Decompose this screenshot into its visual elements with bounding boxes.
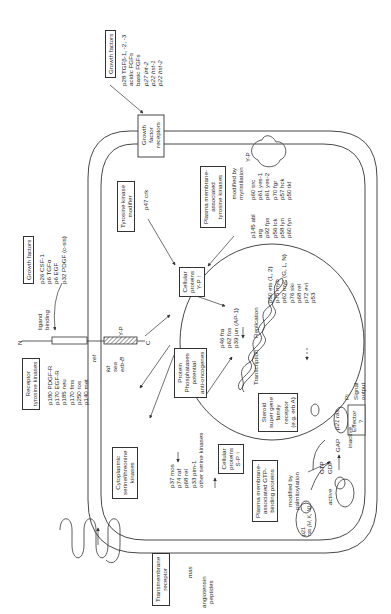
gf-item: p27 int-2: [142, 35, 149, 86]
rtk-item: p180 PDGF-R: [46, 366, 53, 405]
kinase-item: p61 yes-2: [263, 173, 270, 200]
p21ras-text: p21 ras: [333, 409, 340, 430]
label-line: potential: [190, 352, 197, 394]
gap-label: GAP: [334, 439, 341, 452]
label-line: Y-P ↑: [195, 271, 202, 293]
ck-item: p74 raf: [175, 433, 182, 488]
label-line: super gene: [267, 397, 274, 428]
rtk-extra-item: sea: [111, 357, 118, 372]
gf-item: p22 hst-2: [156, 35, 163, 86]
gtp-text: GTP: [318, 461, 325, 474]
receptor-tyrosine-kinases-box: Receptor tyrosine kinases: [22, 358, 40, 410]
rtk-item: p185 neu: [60, 366, 67, 405]
gtp-binding-proteins-box: Plasma membrane- associated GTP- binding…: [252, 460, 278, 522]
label-line: ras (H, K, N): [306, 506, 312, 536]
rtk-item: p170 fms: [68, 366, 75, 405]
label-line: tyrosine kinases: [31, 362, 38, 406]
growth-factors-top-list: p28 TGFβ-1, -2, -3 acidic FGFs basic FGF…: [120, 35, 163, 86]
cytoplasmic-kinases-list: p37 mos p74 raf p68 rel p33 pim-1 other …: [168, 433, 204, 488]
kinase-item: p92 fps: [263, 214, 270, 238]
ck-item: p37 mos: [168, 433, 175, 488]
ap1-item: p62 fos: [225, 308, 232, 348]
ras-active-label: p21 ras (H, K, N): [300, 506, 312, 536]
c-terminus: C: [144, 341, 151, 345]
label-line: Signal: [352, 383, 359, 400]
label-line: angiotensin: [200, 576, 207, 608]
label-line: peptides: [207, 576, 214, 608]
gf-item: p32 PDGF (c-sis): [60, 236, 67, 284]
label-line: receptors: [154, 115, 161, 155]
nuc-item: p62 myc (G, L, N): [280, 254, 287, 303]
nuc-item: p72 evi: [302, 254, 309, 303]
n-terminus: N: [16, 341, 23, 345]
gf-item: p22 hst-1: [149, 35, 156, 86]
nuc-item: p53: [309, 254, 316, 303]
label-line: proteins: [227, 448, 234, 470]
signal-output-label: Signal output: [352, 383, 366, 400]
label-line: proteins: [188, 271, 195, 293]
label-line: Cellular: [181, 271, 188, 293]
gdp-text: GDP: [326, 461, 333, 474]
note-line: modified by: [230, 167, 237, 200]
myr-phospho: Y-P: [244, 152, 251, 162]
ap1-item: p46 fra: [218, 308, 225, 348]
label-line: Plasma membrane-: [202, 170, 209, 224]
rtk-phospho: Y-P: [117, 326, 124, 336]
gf-item: p6 TGFα: [45, 236, 52, 284]
kinase-item: p60 fyn: [285, 214, 292, 238]
pm-kinases-col2: p60 src p61 yes-1 p61 yes-2 p70 fgr p57 …: [249, 173, 292, 200]
active-text: active: [326, 489, 333, 505]
gf-item: p28 TGFβ-1, -2, -3: [120, 35, 127, 86]
gf-left-title: Growth factors: [25, 240, 32, 280]
label-line: ?: [357, 411, 364, 432]
kinase-item: p58 lyn: [278, 214, 285, 238]
gf-item: p26 CSF-1: [38, 236, 45, 284]
label-line: Effector: [350, 411, 357, 432]
cellular-proteins-s-box: Cellular proteins S-P ↑: [218, 444, 244, 474]
crk-label: p47 crk: [142, 190, 149, 210]
label-line: Protein: [176, 352, 183, 394]
mas-serpentine: [60, 519, 120, 563]
label-line: Growth: [140, 115, 147, 155]
receptor-kinase-shape: [22, 337, 145, 344]
label-line: receptor: [161, 557, 168, 602]
transmembrane-receptor-box: Transmembrane receptor: [152, 553, 170, 606]
growth-factor-receptors-label: Growth factor receptors: [140, 115, 162, 155]
ck-item: p68 rel: [182, 433, 189, 488]
label-line: ligand: [36, 310, 43, 330]
rtk-item: p140 met: [82, 366, 89, 405]
label-line: binding: [43, 310, 50, 330]
note-line: myristilation: [237, 167, 244, 200]
receptor-kinases-list: p180 PDGF-R p170 EGF-R p185 neu p170 fms…: [46, 366, 89, 405]
gf-item: p6 EGF: [52, 236, 59, 284]
ret-text: ret: [90, 355, 97, 362]
rtk-extra-list: kit sea erb-B: [104, 357, 126, 372]
label-line: Receptor: [24, 362, 31, 406]
ap1-item: p39 jun (AP-1): [232, 308, 239, 348]
rtk-extra-item: kit: [104, 357, 111, 372]
label-line: factor: [147, 115, 154, 155]
pm-kinases-col1: p145 abl arg p92 fps p56 lck p58 lyn p60…: [249, 214, 292, 238]
label-line: Tyrosine kinase: [119, 185, 126, 228]
gf-item: acidic FGFs: [127, 35, 134, 86]
label-line: Plasma membrane-: [254, 464, 261, 518]
pi-label: Pi: [343, 394, 350, 400]
note-line: modified by: [286, 472, 293, 510]
rtk-item: p250 ros: [75, 366, 82, 405]
label-line: Phosphatases: [183, 352, 190, 394]
rtk-extra-item: erb-B: [118, 357, 125, 372]
steroid-receptor-box: Steroid super gene family receptor (e.g.…: [258, 393, 298, 432]
kinase-item: arg: [256, 214, 263, 238]
ck-item: p33 pim-1: [190, 433, 197, 488]
replication-label: Replication: [252, 307, 259, 338]
label-line: (e.g. erb A): [289, 397, 296, 428]
label-line: receptor: [282, 397, 289, 428]
transcription-text: Transcription: [252, 349, 259, 385]
kinase-item: p61 yes-1: [256, 173, 263, 200]
gap-text: GAP: [334, 439, 341, 452]
protein-phosphatases-box: Protein Phosphatases potential anti-onco…: [174, 348, 207, 398]
kinase-item: p145 abl: [249, 214, 256, 238]
angiotensin-label: angiotensin peptides: [200, 576, 214, 608]
nuc-item: p50 ets (1, 2): [266, 254, 273, 303]
label-line: anti-oncogenes: [198, 352, 205, 394]
